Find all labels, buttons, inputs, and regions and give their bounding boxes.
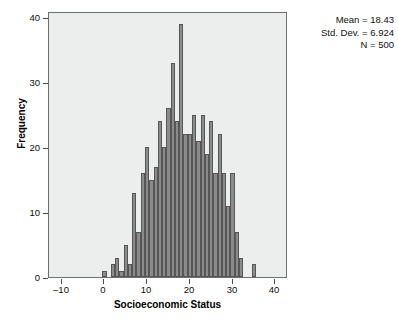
histogram-bars: [49, 13, 286, 277]
plot-area: [48, 12, 287, 278]
y-axis-tick-label: 0: [4, 272, 40, 283]
x-axis-tick-label: –10: [41, 284, 81, 295]
y-axis-tick: [43, 213, 48, 214]
y-axis-tick: [43, 83, 48, 84]
x-axis-tick-label: 40: [254, 284, 294, 295]
y-axis-tick-label: 40: [4, 12, 40, 23]
histogram-bar: [239, 258, 243, 277]
y-axis-tick: [43, 148, 48, 149]
x-axis-tick-label: 30: [212, 284, 252, 295]
stat-mean: Mean = 18.43: [300, 14, 394, 27]
x-axis-tick-label: 10: [126, 284, 166, 295]
histogram-bar: [252, 264, 256, 277]
x-axis-tick-label: 0: [83, 284, 123, 295]
y-axis-tick: [43, 278, 48, 279]
histogram-bar: [102, 271, 106, 277]
stat-n: N = 500: [300, 39, 394, 52]
histogram-figure: 010203040 –10010203040 Frequency Socioec…: [0, 0, 398, 320]
statistics-annotation: Mean = 18.43 Std. Dev. = 6.924 N = 500: [300, 14, 394, 52]
y-axis-title: Frequency: [16, 79, 27, 169]
y-axis-tick-label: 10: [4, 207, 40, 218]
x-axis-tick-label: 20: [169, 284, 209, 295]
stat-std-dev: Std. Dev. = 6.924: [300, 27, 394, 40]
y-axis-tick: [43, 18, 48, 19]
x-axis-title: Socioeconomic Status: [48, 299, 287, 310]
